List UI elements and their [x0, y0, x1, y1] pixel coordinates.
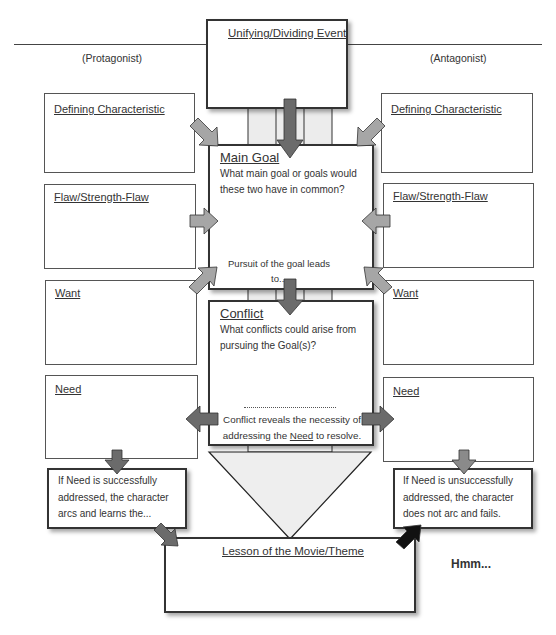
arrow-goal-to-conflict	[277, 279, 303, 315]
arrow-left-flaw	[190, 208, 218, 234]
arrow-conflict-to-left-need	[186, 406, 218, 432]
arrow-right-defining	[357, 118, 385, 146]
arrow-lesson-to-failure	[396, 525, 421, 549]
arrow-left-want	[189, 267, 217, 294]
arrow-event-to-goal	[277, 99, 303, 158]
arrow-conflict-to-right-need	[362, 406, 394, 432]
arrow-need-to-success	[105, 450, 129, 474]
arrow-need-to-failure	[452, 450, 476, 474]
arrows-layer	[0, 0, 556, 635]
arrow-right-flaw	[362, 208, 390, 234]
arrow-left-defining	[190, 118, 218, 146]
arrow-success-to-lesson	[154, 523, 178, 546]
arrow-right-want	[364, 267, 392, 294]
